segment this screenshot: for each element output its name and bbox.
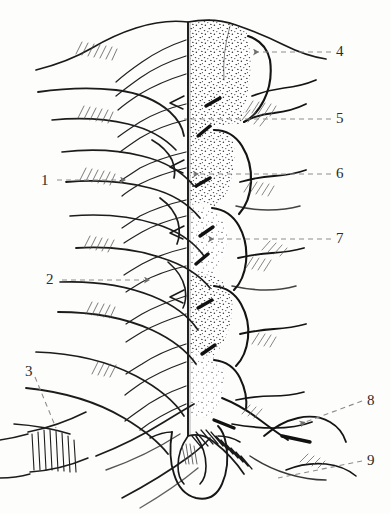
callout-label-9: 9 [367,453,375,468]
callout-label-2: 2 [46,272,54,287]
anterior-margin-contour [36,20,326,80]
illustration-canvas [0,0,390,514]
midline-axis [188,22,190,436]
callout-label-1: 1 [41,173,49,188]
callout-label-6: 6 [336,166,344,181]
callout-label-4: 4 [336,44,344,59]
figure-container: 123456789 [0,0,390,514]
right-half-hatching [242,101,325,468]
callout-label-8: 8 [367,393,375,408]
leader-line-8 [300,401,362,424]
left-basal-ruled-band [0,412,88,478]
leader-line-3 [35,377,56,428]
callout-label-5: 5 [336,111,344,126]
callout-label-7: 7 [336,231,344,246]
callout-label-3: 3 [25,364,33,379]
median-apical-process [150,426,240,499]
left-half-hatching [76,42,117,377]
